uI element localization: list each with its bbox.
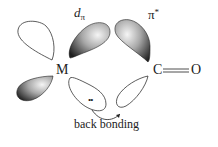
lone-pair-electrons: •• — [88, 96, 92, 105]
metal-d-upper-left-lobe — [18, 21, 54, 60]
metal-label: M — [56, 63, 68, 77]
co-pi-star-upper-lobe — [115, 20, 150, 62]
metal-d-lower-left-lobe — [17, 76, 53, 101]
carbon-label: C — [153, 63, 162, 77]
pi-star-label: π* — [148, 8, 159, 21]
back-bonding-caption: back bonding — [74, 118, 139, 130]
metal-d-upper-right-lobe — [69, 23, 110, 58]
d-pi-label: dπ — [74, 6, 85, 22]
co-double-bond — [163, 69, 189, 72]
oxygen-label: O — [191, 63, 201, 77]
co-pi-star-lower-lobe — [116, 76, 148, 107]
